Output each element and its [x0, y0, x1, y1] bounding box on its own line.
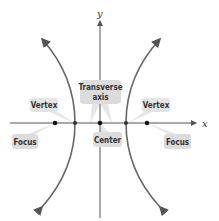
- focus-left-point: [53, 121, 58, 126]
- focus-right-label: Focus: [164, 134, 191, 149]
- y-axis-label: y: [96, 8, 103, 19]
- svg-text:Center: Center: [94, 136, 122, 145]
- svg-text:Transverse: Transverse: [78, 83, 122, 92]
- vertex-left-point: [73, 121, 77, 125]
- svg-text:Focus: Focus: [13, 138, 36, 147]
- vertex-right-point: [124, 121, 128, 125]
- transverse-axis-label: Transverse axis: [78, 80, 122, 104]
- focus-right-point: [145, 121, 150, 126]
- svg-text:Focus: Focus: [166, 138, 189, 147]
- center-label: Center: [93, 132, 122, 147]
- svg-text:axis: axis: [92, 93, 108, 102]
- hyperbola-diagram: x y Transverse axis Vertex Vertex Focus …: [0, 0, 219, 221]
- svg-text:Vertex: Vertex: [143, 101, 170, 110]
- focus-left-label: Focus: [12, 134, 38, 149]
- x-axis-label: x: [202, 118, 208, 129]
- center-point: [98, 121, 103, 126]
- vertex-right-label: Vertex: [142, 98, 170, 112]
- svg-text:Vertex: Vertex: [31, 101, 58, 110]
- vertex-left-label: Vertex: [30, 98, 58, 112]
